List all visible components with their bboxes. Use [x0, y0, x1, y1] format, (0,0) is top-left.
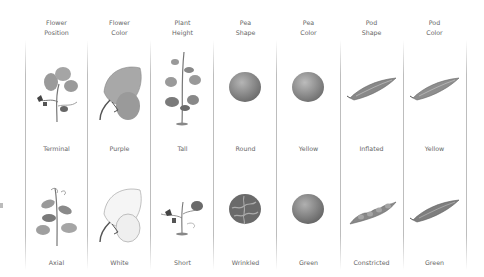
trait-label-dominant: Tall: [151, 145, 214, 152]
header-line: Plant: [151, 18, 214, 28]
pea-yellow-icon: [283, 62, 334, 124]
flowering-plant-terminal-icon: [31, 62, 82, 124]
header-line: Flower: [25, 18, 88, 28]
column-pod-color: Pod Color Yellow Green: [403, 0, 466, 277]
pod-green-icon: [409, 184, 460, 246]
header-line: Shape: [214, 28, 277, 38]
trait-label-recessive: Axial: [25, 259, 88, 266]
trait-label-dominant: Yellow: [277, 145, 340, 152]
trait-label-recessive: Green: [403, 259, 466, 266]
flower-purple-icon: [94, 62, 145, 124]
column-divider: [466, 40, 467, 270]
column-header: Pod Color: [403, 18, 466, 38]
cropped-edge-fragment: [0, 203, 3, 208]
trait-label-dominant: Round: [214, 145, 277, 152]
header-line: Height: [151, 28, 214, 38]
trait-label-dominant: Inflated: [340, 145, 403, 152]
trait-label-recessive: Short: [151, 259, 214, 266]
pea-wrinkled-icon: [220, 184, 271, 246]
header-line: Position: [25, 28, 88, 38]
pea-green-icon: [283, 184, 334, 246]
pod-yellow-icon: [409, 62, 460, 124]
header-line: Pea: [214, 18, 277, 28]
flower-white-icon: [94, 184, 145, 246]
header-line: Shape: [340, 28, 403, 38]
trait-label-recessive: Wrinkled: [214, 259, 277, 266]
trait-label-dominant: Purple: [88, 145, 151, 152]
plant-short-icon: [157, 184, 208, 246]
header-line: Flower: [88, 18, 151, 28]
column-header: Flower Position: [25, 18, 88, 38]
column-header: Plant Height: [151, 18, 214, 38]
pod-inflated-icon: [346, 62, 397, 124]
header-line: Color: [277, 28, 340, 38]
column-pea-shape: Pea Shape Round Wrinkl: [214, 0, 277, 277]
column-pea-color: Pea Color Yellow: [277, 0, 340, 277]
mendel-traits-grid: Flower Position Terminal: [25, 0, 466, 277]
column-plant-height: Plant Height Tall: [151, 0, 214, 277]
column-header: Pea Shape: [214, 18, 277, 38]
pea-round-icon: [220, 62, 271, 124]
column-pod-shape: Pod Shape Inflated Constricted: [340, 0, 403, 277]
header-line: Color: [88, 28, 151, 38]
column-flower-position: Flower Position Terminal: [25, 0, 88, 277]
trait-label-recessive: Constricted: [340, 259, 403, 266]
column-flower-color: Flower Color Purple White: [88, 0, 151, 277]
header-line: Color: [403, 28, 466, 38]
header-line: Pea: [277, 18, 340, 28]
column-header: Pod Shape: [340, 18, 403, 38]
flowering-plant-axial-icon: [31, 184, 82, 246]
header-line: Pod: [403, 18, 466, 28]
header-line: Pod: [340, 18, 403, 28]
trait-label-dominant: Yellow: [403, 145, 466, 152]
trait-label-recessive: White: [88, 259, 151, 266]
trait-label-dominant: Terminal: [25, 145, 88, 152]
plant-tall-icon: [157, 50, 208, 126]
pod-constricted-icon: [346, 184, 397, 246]
column-header: Pea Color: [277, 18, 340, 38]
trait-label-recessive: Green: [277, 259, 340, 266]
column-header: Flower Color: [88, 18, 151, 38]
